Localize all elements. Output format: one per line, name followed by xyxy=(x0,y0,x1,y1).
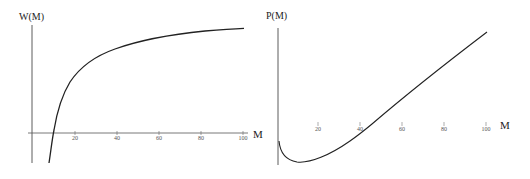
chart-canvas: 20 40 60 80 100 W(M) M 20 40 60 80 100 P… xyxy=(0,0,530,179)
w-tick-100: 100 xyxy=(239,135,248,141)
w-curve xyxy=(49,28,244,163)
p-chart: 20 40 60 80 100 P(M) M xyxy=(266,10,510,165)
w-tick-20: 20 xyxy=(72,135,78,141)
w-chart: 20 40 60 80 100 W(M) M xyxy=(19,11,263,163)
w-tick-80: 80 xyxy=(198,135,204,141)
p-tick-40: 40 xyxy=(357,126,363,132)
w-tick-40: 40 xyxy=(114,135,120,141)
w-tick-60: 60 xyxy=(156,135,162,141)
p-x-label: M xyxy=(500,119,510,131)
p-y-label: P(M) xyxy=(266,10,287,22)
p-tick-100: 100 xyxy=(482,126,491,132)
w-x-label: M xyxy=(253,128,263,140)
w-y-label: W(M) xyxy=(19,11,44,23)
p-tick-80: 80 xyxy=(441,126,447,132)
p-tick-20: 20 xyxy=(315,126,321,132)
p-curve xyxy=(279,32,487,162)
p-tick-60: 60 xyxy=(399,126,405,132)
